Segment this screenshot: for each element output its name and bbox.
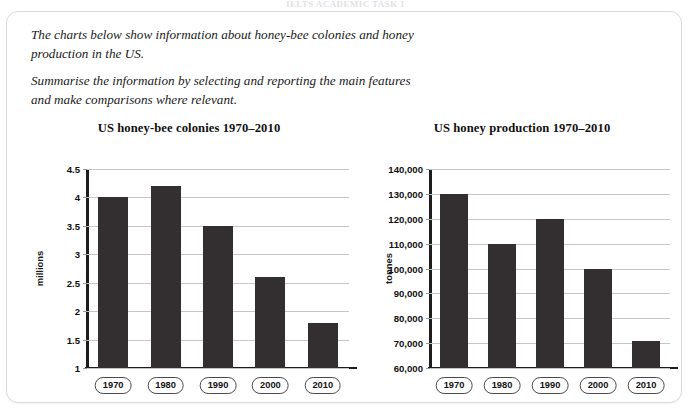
y-tick-label: 60,000 — [394, 363, 423, 374]
bar — [584, 269, 612, 369]
x-axis-labels-left: 19701980199020002010 — [87, 368, 349, 398]
y-tick-mark — [83, 254, 87, 255]
bar — [440, 194, 468, 368]
x-axis-category-label: 1990 — [532, 377, 569, 394]
chart-title-left: US honey-bee colonies 1970–2010 — [15, 121, 363, 136]
y-tick-mark — [426, 194, 430, 195]
x-axis-category-label: 1970 — [95, 377, 132, 394]
y-tick-label: 2.5 — [67, 277, 80, 288]
y-tick-label: 3 — [75, 249, 80, 260]
chart-title-right: US honey production 1970–2010 — [363, 121, 681, 136]
bar — [203, 226, 233, 368]
x-axis-category-label: 1990 — [200, 377, 237, 394]
y-tick-label: 1 — [75, 363, 80, 374]
plot-area-left: 19701980199020002010 11.522.533.544.5 — [87, 169, 349, 368]
bar — [308, 323, 338, 368]
cut-off-header-text: IELTS ACADEMIC TASK 1 — [0, 0, 691, 9]
y-tick-mark — [83, 283, 87, 284]
y-axis-label-left: millions — [34, 248, 45, 288]
y-tick-label: 110,000 — [389, 238, 423, 249]
y-tick-label: 80,000 — [394, 313, 423, 324]
x-axis-category-label: 1980 — [484, 377, 521, 394]
y-tick-label: 130,000 — [388, 188, 423, 199]
y-tick-label: 3.5 — [67, 220, 80, 231]
gridline — [87, 368, 349, 369]
bar — [536, 219, 564, 368]
x-axis-category-label: 2010 — [304, 377, 341, 394]
y-tick-mark — [426, 269, 430, 270]
y-tick-label: 2 — [75, 306, 80, 317]
bar — [151, 186, 181, 368]
y-tick-mark — [426, 343, 430, 344]
y-tick-mark — [426, 244, 430, 245]
x-axis-category-label: 1980 — [147, 377, 184, 394]
y-tick-label: 140,000 — [388, 164, 423, 175]
y-tick-mark — [83, 340, 87, 341]
prompt-paragraph-1: The charts below show information about … — [31, 26, 431, 63]
y-tick-mark — [83, 368, 87, 369]
y-tick-label: 70,000 — [394, 338, 423, 349]
chart-honey-bee-colonies: US honey-bee colonies 1970–2010 millions… — [15, 117, 363, 403]
chart-honey-production: US honey production 1970–2010 tonnes 197… — [363, 117, 681, 403]
x-axis-category-label: 2000 — [252, 377, 289, 394]
bar — [488, 244, 516, 368]
y-tick-mark — [426, 169, 430, 170]
x-axis-labels-right: 19701980199020002010 — [430, 368, 670, 398]
y-tick-label: 4 — [75, 192, 80, 203]
question-panel: The charts below show information about … — [6, 11, 682, 403]
y-tick-label: 90,000 — [394, 288, 423, 299]
y-tick-mark — [83, 226, 87, 227]
y-tick-label: 120,000 — [388, 213, 423, 224]
prompt-paragraph-2: Summarise the information by selecting a… — [31, 72, 431, 109]
plot-area-right: 19701980199020002010 60,00070,00080,0009… — [430, 169, 670, 368]
gridline — [430, 368, 670, 369]
x-axis-category-label: 1970 — [436, 377, 473, 394]
y-tick-mark — [426, 368, 430, 369]
charts-container: US honey-bee colonies 1970–2010 millions… — [7, 117, 681, 403]
gridline — [87, 169, 349, 170]
y-axis-line-left — [86, 169, 89, 368]
y-tick-mark — [426, 293, 430, 294]
y-tick-mark — [83, 311, 87, 312]
gridline — [430, 169, 670, 170]
y-tick-label: 1.5 — [67, 334, 80, 345]
y-tick-mark — [426, 219, 430, 220]
y-tick-mark — [426, 318, 430, 319]
x-axis-category-label: 2000 — [580, 377, 617, 394]
x-axis-category-label: 2010 — [628, 377, 665, 394]
y-tick-mark — [83, 197, 87, 198]
task-prompt: The charts below show information about … — [31, 26, 431, 118]
y-tick-label: 100,000 — [388, 263, 423, 274]
y-tick-label: 4.5 — [67, 164, 80, 175]
bar — [98, 197, 128, 368]
bar — [255, 277, 285, 368]
y-tick-mark — [83, 169, 87, 170]
bar — [632, 341, 660, 368]
